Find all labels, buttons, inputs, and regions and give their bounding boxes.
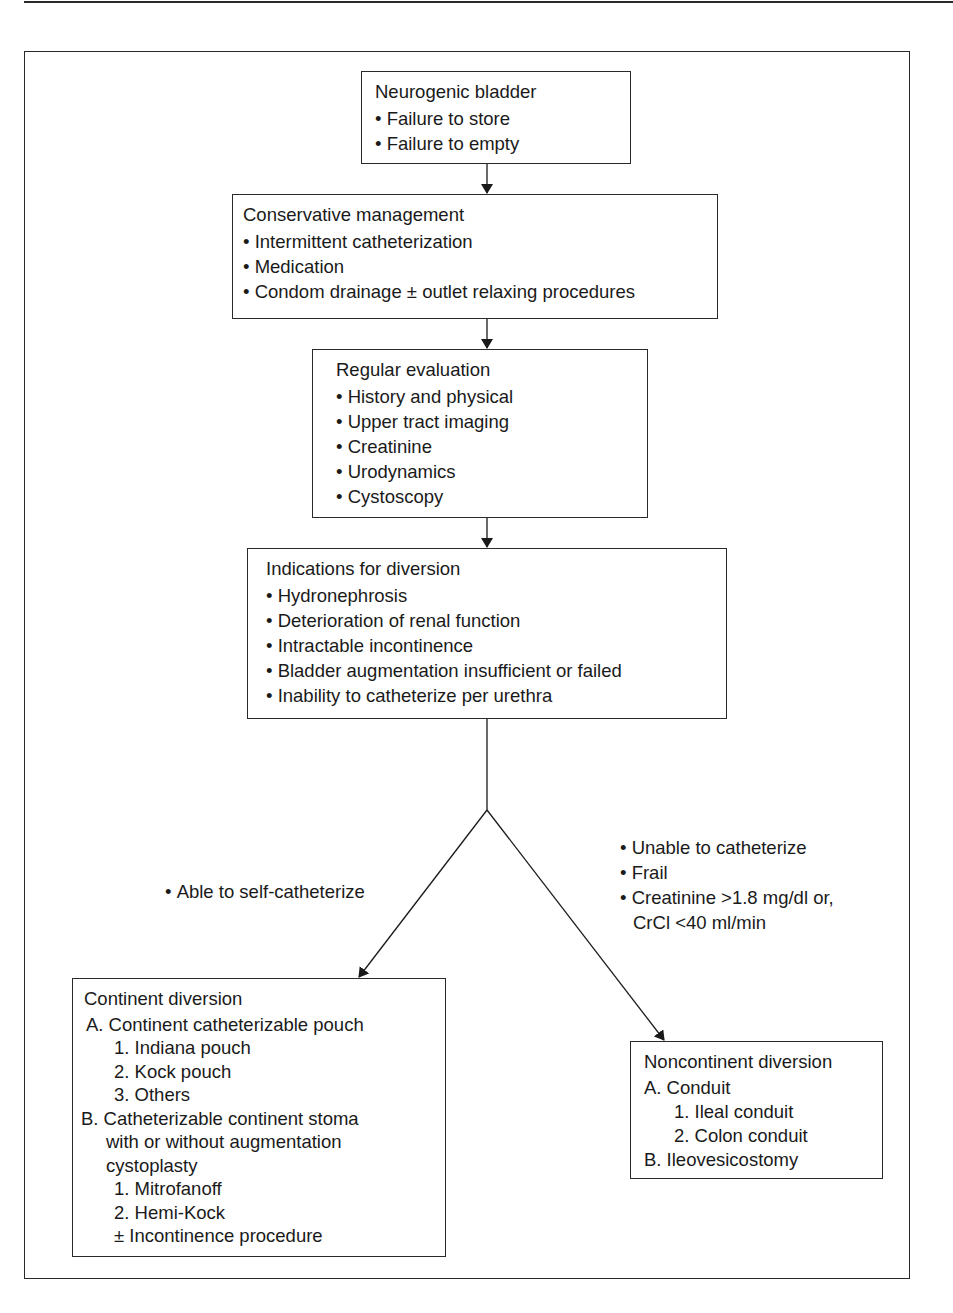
edge-condition: Able to self-catheterize — [165, 881, 365, 902]
node-title: Conservative management — [243, 202, 717, 227]
option-b-label: B. Catheterizable continent stoma — [81, 1107, 445, 1131]
node-continent-diversion: Continent diversion A. Continent cathete… — [72, 978, 446, 1257]
edge-condition-continuation: CrCl <40 ml/min — [620, 910, 834, 935]
node-noncontinent-diversion: Noncontinent diversion A. Conduit 1. Ile… — [630, 1041, 883, 1179]
node-conservative-management: Conservative management Intermittent cat… — [232, 194, 718, 319]
option-a-label: A. Conduit — [644, 1076, 882, 1100]
list-item: 1. Mitrofanoff — [84, 1177, 445, 1201]
option-b-label-cont: with or without augmentation — [84, 1130, 445, 1154]
list-item: 1. Ileal conduit — [644, 1100, 882, 1124]
list-item: Condom drainage ± outlet relaxing proced… — [243, 279, 717, 304]
list-item: 2. Colon conduit — [644, 1124, 882, 1148]
list-item: Upper tract imaging — [336, 409, 647, 434]
edge-condition: Creatinine >1.8 mg/dl or, — [620, 885, 834, 910]
edge-condition: Frail — [620, 860, 834, 885]
node-neurogenic-bladder: Neurogenic bladder Failure to store Fail… — [361, 71, 631, 164]
list-item: 2. Hemi-Kock — [84, 1201, 445, 1225]
option-b-label: B. Ileovesicostomy — [644, 1148, 882, 1172]
list-item: Failure to empty — [375, 131, 630, 156]
edge-label-left: Able to self-catheterize — [165, 879, 365, 904]
list-item: Intractable incontinence — [266, 633, 726, 658]
list-item: Medication — [243, 254, 717, 279]
list-item: 2. Kock pouch — [84, 1060, 445, 1084]
node-title: Noncontinent diversion — [644, 1050, 882, 1074]
arrow-to-continent — [359, 810, 487, 977]
node-indications-for-diversion: Indications for diversion Hydronephrosis… — [247, 548, 727, 719]
edge-condition: Unable to catheterize — [620, 835, 834, 860]
list-item: 3. Others — [84, 1083, 445, 1107]
node-title: Continent diversion — [84, 987, 445, 1011]
node-regular-evaluation: Regular evaluation History and physical … — [312, 349, 648, 518]
list-item: Cystoscopy — [336, 484, 647, 509]
node-title: Neurogenic bladder — [375, 79, 630, 104]
node-title: Indications for diversion — [266, 556, 726, 581]
list-item: Failure to store — [375, 106, 630, 131]
node-title: Regular evaluation — [336, 357, 647, 382]
option-b-label-cont: cystoplasty — [84, 1154, 445, 1178]
list-item: Intermittent catheterization — [243, 229, 717, 254]
list-item: Deterioration of renal function — [266, 608, 726, 633]
list-item: History and physical — [336, 384, 647, 409]
edge-label-right: Unable to catheterize Frail Creatinine >… — [620, 835, 834, 935]
list-item: Hydronephrosis — [266, 583, 726, 608]
list-item: Urodynamics — [336, 459, 647, 484]
list-item: 1. Indiana pouch — [84, 1036, 445, 1060]
list-item: Inability to catheterize per urethra — [266, 683, 726, 708]
list-item: Bladder augmentation insufficient or fai… — [266, 658, 726, 683]
option-a-label: A. Continent catheterizable pouch — [84, 1013, 445, 1037]
list-item: Creatinine — [336, 434, 647, 459]
note: ± Incontinence procedure — [84, 1224, 445, 1248]
